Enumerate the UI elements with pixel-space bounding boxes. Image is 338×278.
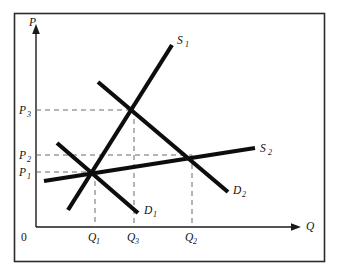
quantity-tick-q1-sub: 1 [96, 237, 100, 246]
curve-label-s2-base: S [260, 142, 266, 154]
curve-label-s1-sub: 1 [185, 40, 189, 49]
price-tick-p2-sub: 2 [27, 155, 31, 164]
price-tick-labels: P 3 P 2 P 1 [18, 104, 31, 181]
price-tick-p3-sub: 3 [26, 110, 31, 119]
quantity-tick-q1: Q 1 [88, 231, 100, 246]
quantity-axis-arrowhead [291, 223, 301, 231]
origin-label: 0 [21, 231, 27, 243]
price-axis-label: P [28, 16, 36, 28]
price-tick-p3: P 3 [18, 104, 31, 119]
curve-label-s1: S 1 [177, 34, 189, 49]
price-tick-p2-base: P [18, 149, 26, 161]
quantity-tick-q2-sub: 2 [193, 237, 197, 246]
price-tick-p1: P 1 [18, 166, 31, 181]
price-tick-p1-base: P [18, 166, 26, 178]
curve-label-d2-sub: 2 [242, 190, 246, 199]
price-axis [32, 24, 40, 227]
curve-label-s2: S 2 [260, 142, 272, 157]
curve-label-d1-base: D [143, 204, 153, 216]
curve-label-d1: D 1 [143, 204, 157, 219]
supply-demand-figure: P Q 0 P 3 P 2 P 1 Q 1 Q [0, 0, 338, 278]
curve-label-d1-sub: 1 [153, 210, 157, 219]
curve-label-d2: D 2 [232, 184, 246, 199]
supply-curve-s2[interactable] [44, 148, 255, 181]
quantity-tick-q2: Q 2 [185, 231, 197, 246]
curve-label-s1-base: S [177, 34, 183, 46]
quantity-tick-q3: Q 3 [127, 231, 139, 246]
price-tick-p3-base: P [18, 104, 26, 116]
quantity-axis [36, 223, 301, 231]
quantity-tick-labels: Q 1 Q 3 Q 2 [88, 231, 197, 246]
demand-curve-d2[interactable] [98, 82, 228, 192]
curve-label-s2-sub: 2 [268, 148, 272, 157]
quantity-axis-label: Q [306, 220, 315, 232]
curve-label-d2-base: D [232, 184, 242, 196]
supply-curve-s1[interactable] [68, 45, 172, 210]
diagram-root: P Q 0 P 3 P 2 P 1 Q 1 Q [0, 0, 338, 278]
price-tick-p1-sub: 1 [27, 172, 31, 181]
price-tick-p2: P 2 [18, 149, 31, 164]
quantity-tick-q3-sub: 3 [134, 237, 139, 246]
curve-set [44, 45, 255, 213]
